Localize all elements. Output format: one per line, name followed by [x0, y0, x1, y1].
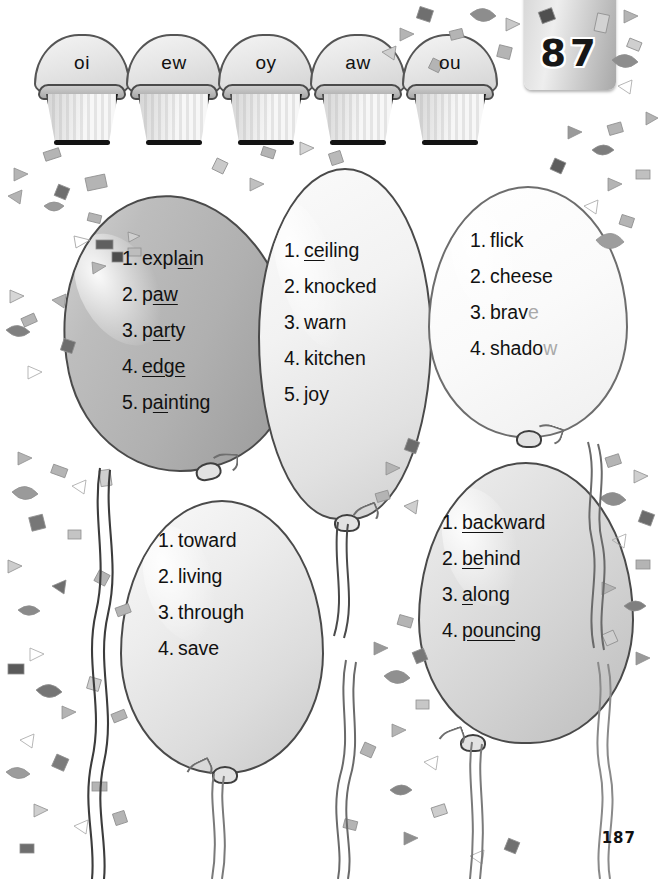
word-number: 1. — [158, 522, 178, 558]
word-item: 4. save — [158, 630, 244, 666]
word-number: 2. — [122, 276, 142, 312]
word-item: 2. cheese — [470, 258, 557, 294]
balloon-4-wordlist: 1. toward2. living3. through4. save — [158, 522, 244, 666]
word-number: 4. — [284, 340, 304, 376]
cupcake-aw: aw — [306, 34, 410, 146]
word-prefix: living — [178, 565, 222, 587]
balloon-5-wordlist: 1. backward2. behind3. along4. pouncing — [442, 504, 545, 648]
cupcake-row: oiewoyawou — [30, 34, 500, 154]
word-underlined-part: ai — [153, 391, 168, 413]
word-prefix: joy — [304, 383, 329, 405]
word-item: 1. explain — [122, 240, 210, 276]
word-prefix: shado — [490, 337, 543, 359]
word-number: 2. — [470, 258, 490, 294]
word-underlined-part: back — [462, 511, 503, 533]
balloon-3-wordlist: 1. flick2. cheese3. brave4. shadow — [470, 222, 557, 366]
word-item: 4. pouncing — [442, 612, 545, 648]
word-number: 3. — [470, 294, 490, 330]
word-suffix: nting — [168, 391, 210, 413]
balloon-2-wordlist: 1. ceiling2. knocked3. warn4. kitchen5. … — [284, 232, 377, 412]
word-prefix: save — [178, 637, 219, 659]
word-item: 1. ceiling — [284, 232, 377, 268]
word-number: 2. — [158, 558, 178, 594]
balloon-1-tie — [208, 453, 239, 476]
word-prefix: cheese — [490, 265, 553, 287]
word-underlined-part: be — [462, 547, 484, 569]
word-number: 3. — [158, 594, 178, 630]
word-number: 4. — [470, 330, 490, 366]
cupcake-ou: ou — [398, 34, 502, 146]
word-item: 4. kitchen — [284, 340, 377, 376]
word-prefix: warn — [304, 311, 346, 333]
word-number: 4. — [158, 630, 178, 666]
word-number: 1. — [284, 232, 304, 268]
cupcake-ew: ew — [122, 34, 226, 146]
word-number: 5. — [122, 384, 142, 420]
word-suffix: hind — [484, 547, 521, 569]
cupcake-label: ou — [398, 52, 502, 74]
word-suffix: long — [473, 583, 510, 605]
word-prefix: p — [142, 319, 153, 341]
word-item: 5. joy — [284, 376, 377, 412]
word-item: 3. along — [442, 576, 545, 612]
word-number: 3. — [122, 312, 142, 348]
word-item: 5. painting — [122, 384, 210, 420]
cupcake-label: oy — [214, 52, 318, 74]
word-number: 1. — [122, 240, 142, 276]
word-underlined-part: ce — [304, 239, 325, 261]
cupcake-base — [54, 140, 110, 145]
word-item: 2. knocked — [284, 268, 377, 304]
word-prefix: through — [178, 601, 244, 623]
cupcake-wrapper-shade — [138, 94, 210, 144]
cupcake-label: oi — [30, 52, 134, 74]
word-item: 4. edge — [122, 348, 210, 384]
cupcake-base — [146, 140, 202, 145]
word-prefix: flick — [490, 229, 524, 251]
word-faded-part: e — [528, 301, 539, 323]
worksheet-page: oiewoyawou 87 — [0, 0, 658, 879]
word-prefix: kitchen — [304, 347, 366, 369]
cupcake-base — [330, 140, 386, 145]
word-item: 1. flick — [470, 222, 557, 258]
word-prefix: expl — [142, 247, 178, 269]
word-item: 2. behind — [442, 540, 545, 576]
cupcake-wrapper-shade — [414, 94, 486, 144]
word-underlined-part: edge — [142, 355, 185, 377]
word-number: 3. — [442, 576, 462, 612]
cupcake-label: aw — [306, 52, 410, 74]
word-prefix: p — [142, 283, 153, 305]
word-item: 1. backward — [442, 504, 545, 540]
cupcake-wrapper-shade — [46, 94, 118, 144]
word-prefix: toward — [178, 529, 237, 551]
word-faded-part: w — [543, 337, 557, 359]
word-suffix: ing — [515, 619, 541, 641]
word-number: 5. — [284, 376, 304, 412]
word-underlined-part: a — [462, 583, 473, 605]
word-number: 3. — [284, 304, 304, 340]
word-number: 2. — [284, 268, 304, 304]
word-item: 1. toward — [158, 522, 244, 558]
footer-page-number: 187 — [602, 829, 636, 847]
balloon-4-knot — [212, 766, 238, 784]
word-item: 3. warn — [284, 304, 377, 340]
word-item: 3. brave — [470, 294, 557, 330]
cupcake-base — [422, 140, 478, 145]
word-number: 4. — [122, 348, 142, 384]
word-item: 3. party — [122, 312, 210, 348]
page-number-tab: 87 — [524, 0, 616, 90]
word-underlined-part: ai — [178, 247, 193, 269]
cupcake-oi: oi — [30, 34, 134, 146]
word-number: 2. — [442, 540, 462, 576]
word-suffix: ward — [503, 511, 545, 533]
cupcake-oy: oy — [214, 34, 318, 146]
cupcake-base — [238, 140, 294, 145]
word-suffix: n — [193, 247, 204, 269]
word-item: 2. paw — [122, 276, 210, 312]
cupcake-wrapper-shade — [230, 94, 302, 144]
word-underlined-part: ar — [153, 319, 170, 341]
word-underlined-part: pounc — [462, 619, 515, 641]
word-prefix: brav — [490, 301, 528, 323]
cupcake-label: ew — [122, 52, 226, 74]
page-tab-number: 87 — [524, 32, 616, 75]
word-number: 1. — [470, 222, 490, 258]
